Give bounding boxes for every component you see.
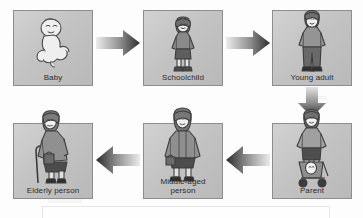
stage-box-elderly-person[interactable]: Elderly person [13,123,93,199]
arrow-left-icon [226,146,270,174]
stage-label-elderly-person: Elderly person [14,186,92,195]
baby-figure-icon [31,17,75,69]
parent-with-pushchair-figure-icon [292,106,332,190]
arrow-left-icon [96,146,140,174]
empty-caption-frame [42,206,330,218]
arrow-right-icon [226,30,270,56]
stage-label-young-adult: Young adult [273,73,351,82]
young-adult-figure-icon [294,7,330,75]
stage-label-middle-aged-person: Middle-aged person [144,177,222,195]
stage-box-schoolchild[interactable]: Schoolchild [143,10,223,86]
middle-aged-person-figure-icon [161,100,205,184]
elderly-person-with-walking-stick-figure-icon [31,104,75,184]
stage-box-parent[interactable]: Parent [272,123,352,199]
schoolchild-figure-icon [166,15,200,73]
stage-label-parent: Parent [273,186,351,195]
stage-box-baby[interactable]: Baby [13,10,93,86]
stage-box-middle-aged-person[interactable]: Middle-aged person [143,123,223,199]
stage-label-baby: Baby [14,73,92,82]
stage-label-schoolchild: Schoolchild [144,73,222,82]
arrow-right-icon [96,30,140,56]
stage-box-young-adult[interactable]: Young adult [272,10,352,86]
life-cycle-diagram: Baby [0,0,363,218]
